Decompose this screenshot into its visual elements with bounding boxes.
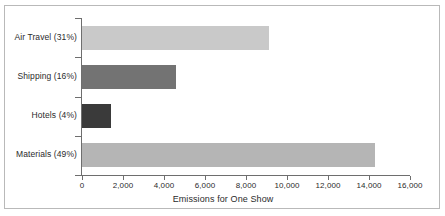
bar — [82, 26, 269, 50]
x-axis-tick — [287, 176, 288, 180]
x-axis-title: Emissions for One Show — [5, 194, 441, 204]
y-axis-tick — [75, 136, 81, 137]
bar — [82, 65, 176, 89]
x-axis-tick-label: 2,000 — [113, 181, 134, 190]
x-axis-tick — [369, 176, 370, 180]
x-axis-tick — [82, 176, 83, 180]
x-axis-tick-label: 4,000 — [154, 181, 175, 190]
y-axis-tick — [75, 57, 81, 58]
x-axis-tick-label: 6,000 — [195, 181, 216, 190]
x-axis-tick — [205, 176, 206, 180]
category-label: Hotels (4%) — [31, 110, 77, 120]
y-axis-tick — [75, 175, 81, 176]
x-axis-tick — [123, 176, 124, 180]
y-axis-tick — [75, 97, 81, 98]
bar — [82, 104, 111, 128]
bar — [82, 143, 375, 167]
bar-chart-plot-area: Air Travel (31%)Shipping (16%)Hotels (4%… — [5, 6, 441, 210]
category-label: Air Travel (31%) — [14, 32, 77, 42]
x-axis-tick-label: 0 — [80, 181, 85, 190]
x-axis-tick-label: 8,000 — [236, 181, 257, 190]
x-axis-tick-label: 16,000 — [397, 181, 422, 190]
y-axis-tick — [75, 18, 81, 19]
x-axis-tick-label: 14,000 — [356, 181, 381, 190]
x-axis-tick — [410, 176, 411, 180]
x-axis-tick — [328, 176, 329, 180]
x-axis-tick — [164, 176, 165, 180]
chart-frame: Air Travel (31%)Shipping (16%)Hotels (4%… — [4, 5, 440, 209]
x-axis-tick-label: 10,000 — [274, 181, 299, 190]
category-label: Materials (49%) — [16, 149, 77, 159]
x-axis-tick — [246, 176, 247, 180]
category-label: Shipping (16%) — [17, 71, 77, 81]
x-axis-tick-label: 12,000 — [315, 181, 340, 190]
